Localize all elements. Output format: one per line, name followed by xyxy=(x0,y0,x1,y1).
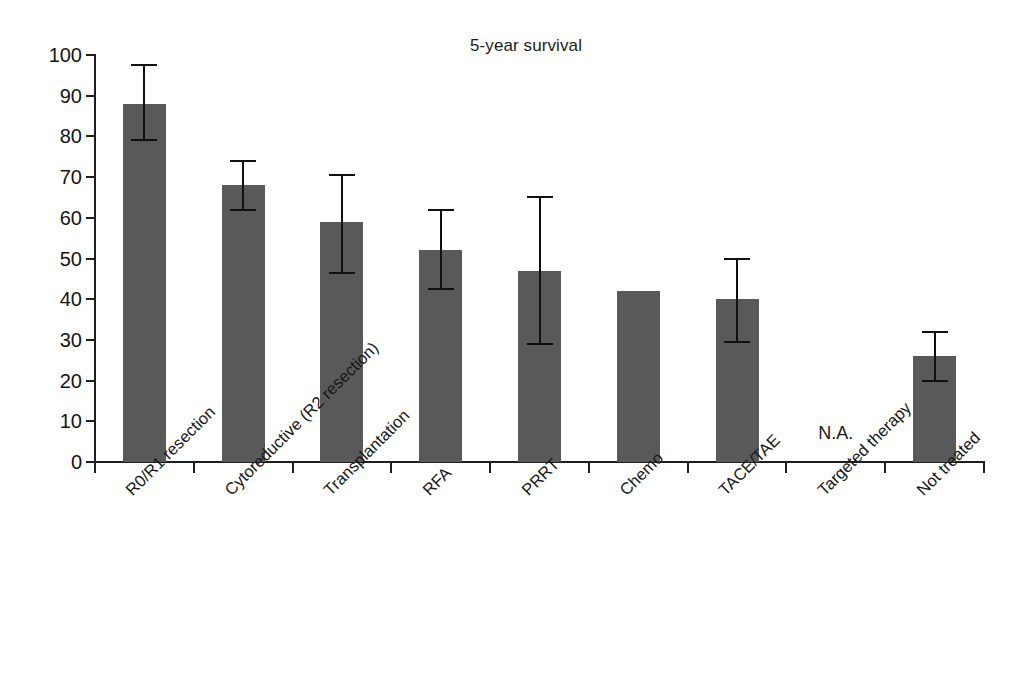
bar-r0-r1-resection xyxy=(123,104,166,462)
y-tick-label-text: 80 xyxy=(34,126,82,146)
error-bar-line-2 xyxy=(341,175,343,273)
y-tick-label-text: 90 xyxy=(34,86,82,106)
y-tick-label-50: 50 xyxy=(30,249,82,269)
y-tick-label-60: 60 xyxy=(30,208,82,228)
y-tick-label-text: 40 xyxy=(34,289,82,309)
bar-chemo xyxy=(617,291,660,462)
error-bar-line-0 xyxy=(143,65,145,140)
error-bar-cap-upper-2 xyxy=(329,174,355,176)
y-tick-50 xyxy=(86,258,95,260)
bar-cytoreductive-r2-resection xyxy=(222,185,265,462)
y-tick-label-text: 60 xyxy=(34,208,82,228)
error-bar-cap-upper-8 xyxy=(922,331,948,333)
y-tick-label-30: 30 xyxy=(30,330,82,350)
y-tick-label-100: 100 xyxy=(30,45,82,65)
x-tick-5 xyxy=(588,463,590,473)
x-tick-8 xyxy=(884,463,886,473)
x-tick-9 xyxy=(983,463,985,473)
y-tick-60 xyxy=(86,217,95,219)
x-tick-2 xyxy=(292,463,294,473)
y-tick-label-0: 0 xyxy=(30,452,82,472)
y-tick-label-90: 90 xyxy=(30,86,82,106)
y-tick-40 xyxy=(86,298,95,300)
y-tick-20 xyxy=(86,380,95,382)
error-bar-cap-lower-2 xyxy=(329,272,355,274)
error-bar-cap-lower-8 xyxy=(922,380,948,382)
error-bar-cap-lower-3 xyxy=(428,288,454,290)
y-tick-label-text: 10 xyxy=(34,411,82,431)
error-bar-line-8 xyxy=(934,332,936,381)
y-tick-label-40: 40 xyxy=(30,289,82,309)
y-tick-30 xyxy=(86,339,95,341)
survival-bar-chart: 5-year survival 0102030405060708090100 N… xyxy=(0,0,1021,695)
y-tick-90 xyxy=(86,95,95,97)
x-tick-0 xyxy=(94,463,96,473)
error-bar-cap-lower-6 xyxy=(724,341,750,343)
y-tick-label-text: 30 xyxy=(34,330,82,350)
error-bar-cap-upper-0 xyxy=(131,64,157,66)
y-tick-10 xyxy=(86,420,95,422)
chart-title: 5-year survival xyxy=(470,36,582,56)
y-tick-label-text: 100 xyxy=(34,45,82,65)
y-tick-100 xyxy=(86,54,95,56)
error-bar-cap-upper-6 xyxy=(724,258,750,260)
y-tick-label-text: 0 xyxy=(34,452,82,472)
x-axis-label-rfa: RFA xyxy=(419,463,454,498)
y-tick-80 xyxy=(86,135,95,137)
error-bar-cap-lower-0 xyxy=(131,139,157,141)
error-bar-cap-lower-1 xyxy=(230,209,256,211)
x-tick-3 xyxy=(390,463,392,473)
error-bar-line-3 xyxy=(440,210,442,289)
x-tick-6 xyxy=(687,463,689,473)
error-bar-line-6 xyxy=(736,259,738,342)
annotation-na: N.A. xyxy=(818,424,853,442)
x-axis-label-targeted-therapy: Targeted therapy xyxy=(814,398,914,498)
y-tick-label-80: 80 xyxy=(30,126,82,146)
error-bar-line-1 xyxy=(242,161,244,210)
error-bar-cap-upper-1 xyxy=(230,160,256,162)
y-tick-label-10: 10 xyxy=(30,411,82,431)
error-bar-cap-upper-3 xyxy=(428,209,454,211)
y-tick-label-text: 70 xyxy=(34,167,82,187)
x-tick-4 xyxy=(489,463,491,473)
y-tick-70 xyxy=(86,176,95,178)
error-bar-cap-lower-4 xyxy=(527,343,553,345)
error-bar-line-4 xyxy=(539,197,541,344)
y-tick-label-70: 70 xyxy=(30,167,82,187)
y-tick-label-text: 20 xyxy=(34,371,82,391)
x-tick-7 xyxy=(785,463,787,473)
y-tick-label-20: 20 xyxy=(30,371,82,391)
error-bar-cap-upper-4 xyxy=(527,196,553,198)
y-tick-label-text: 50 xyxy=(34,249,82,269)
x-tick-1 xyxy=(193,463,195,473)
